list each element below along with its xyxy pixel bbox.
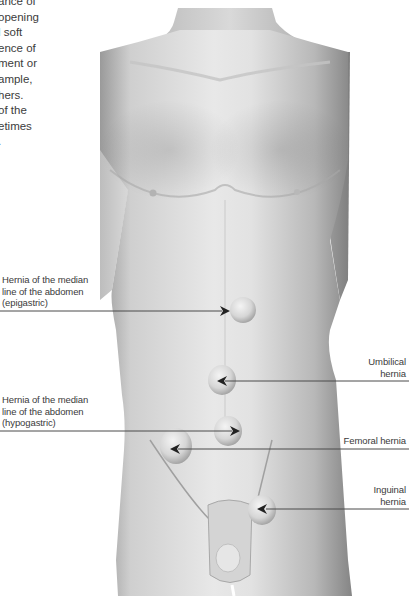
label-line: Inguinal <box>374 484 406 496</box>
label-line: Hernia of the median <box>2 394 88 406</box>
label-line: line of the abdomen <box>2 286 88 298</box>
label-line: (epigastric) <box>2 297 88 309</box>
label-hypogastric-hernia: Hernia of the median line of the abdomen… <box>2 394 88 429</box>
label-line: hernia <box>374 496 406 508</box>
nipple-left <box>150 190 157 197</box>
label-umbilical-hernia: Umbilical hernia <box>368 356 406 379</box>
label-line: Hernia of the median <box>2 274 88 286</box>
label-line: (hypogastric) <box>2 417 88 429</box>
label-line: line of the abdomen <box>2 406 88 418</box>
nipple-right <box>294 189 300 195</box>
hernia-epigastric <box>230 297 256 323</box>
label-inguinal-hernia: Inguinal hernia <box>374 484 406 507</box>
label-line: hernia <box>368 368 406 380</box>
label-line: Femoral hernia <box>344 435 407 447</box>
label-line: Umbilical <box>368 356 406 368</box>
label-epigastric-hernia: Hernia of the median line of the abdomen… <box>2 274 88 309</box>
label-femoral-hernia: Femoral hernia <box>344 435 407 447</box>
